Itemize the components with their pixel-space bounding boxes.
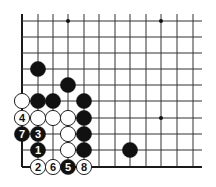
black-stone-icon: [76, 93, 91, 108]
white-stone: [60, 126, 75, 141]
white-stone-icon: [30, 110, 45, 125]
move-number: 6: [50, 161, 56, 173]
black-stone: [76, 93, 91, 108]
black-stone: [30, 61, 45, 76]
black-stone-icon: [30, 61, 45, 76]
black-stone: [122, 142, 137, 157]
move-number: 5: [65, 161, 71, 173]
white-stone: [30, 110, 45, 125]
black-stone: [76, 110, 91, 125]
black-stone-icon: [76, 142, 91, 157]
white-stone-icon: [60, 142, 75, 157]
white-stone-move-4: 4: [14, 110, 29, 125]
black-stone: [45, 93, 60, 108]
star-point: [159, 116, 163, 120]
black-stone-move-7: 7: [14, 126, 29, 141]
white-stone-icon: [60, 126, 75, 141]
black-stone: [76, 126, 91, 141]
move-number: 3: [35, 128, 41, 140]
black-stone: [30, 93, 45, 108]
white-stone: [60, 142, 75, 157]
move-number: 8: [81, 161, 87, 173]
white-stone-move-8: 8: [76, 159, 91, 174]
black-stone: [60, 77, 75, 92]
black-stone-icon: [60, 77, 75, 92]
black-stone-icon: [45, 93, 60, 108]
white-stone-move-6: 6: [45, 159, 60, 174]
black-stone-icon: [122, 142, 137, 157]
black-stone-icon: [30, 93, 45, 108]
white-stone-icon: [60, 110, 75, 125]
black-stone-move-3: 3: [30, 126, 45, 141]
go-board-diagram: 47312658: [0, 0, 216, 187]
board-grid: [22, 14, 202, 167]
white-stone-icon: [14, 93, 29, 108]
move-number: 7: [19, 128, 25, 140]
black-stone-move-5: 5: [60, 159, 75, 174]
move-number: 4: [19, 112, 26, 124]
black-stone-icon: [76, 110, 91, 125]
white-stone-icon: [45, 110, 60, 125]
black-stone: [76, 142, 91, 157]
star-point: [159, 19, 163, 23]
white-stone: [45, 110, 60, 125]
white-stone-move-2: 2: [30, 159, 45, 174]
black-stone-icon: [76, 126, 91, 141]
star-point: [66, 19, 70, 23]
move-number: 1: [35, 144, 41, 156]
white-stone: [14, 93, 29, 108]
black-stone-move-1: 1: [30, 142, 45, 157]
white-stone: [60, 110, 75, 125]
move-number: 2: [35, 161, 41, 173]
